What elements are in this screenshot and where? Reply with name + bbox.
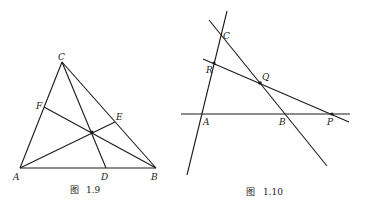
label-F: F: [35, 101, 43, 111]
segment-BC: [62, 62, 156, 168]
label-B: B: [150, 172, 158, 182]
caption-prefix: 图: [70, 185, 79, 195]
figure-1-9: A B C D E F 图 1.9: [12, 52, 158, 195]
figures-canvas: A B C D E F 图 1.9 A B C P Q R 图 1.10: [0, 0, 365, 210]
label-A: A: [202, 117, 210, 127]
point-P: [330, 112, 333, 115]
cevian-CD: [62, 62, 106, 168]
label-Q: Q: [262, 72, 270, 82]
cevian-BF: [44, 107, 156, 168]
segment-CA: [20, 62, 62, 168]
caption-prefix: 图: [246, 187, 255, 197]
label-A: A: [12, 172, 20, 182]
caption-number: 1.9: [86, 185, 101, 195]
label-D: D: [100, 172, 108, 182]
label-E: E: [115, 112, 123, 122]
line-RP: [203, 59, 349, 122]
label-B: B: [278, 117, 286, 127]
point-R: [212, 61, 215, 64]
label-C: C: [223, 31, 230, 41]
line-CB: [209, 20, 327, 166]
concurrency-point: [90, 130, 93, 133]
figure-1-10: A B C P Q R 图 1.10: [181, 11, 350, 197]
cevian-AE: [20, 122, 115, 168]
label-R: R: [205, 65, 213, 75]
label-P: P: [326, 117, 334, 127]
caption-number: 1.10: [263, 187, 283, 197]
label-C: C: [58, 52, 65, 62]
